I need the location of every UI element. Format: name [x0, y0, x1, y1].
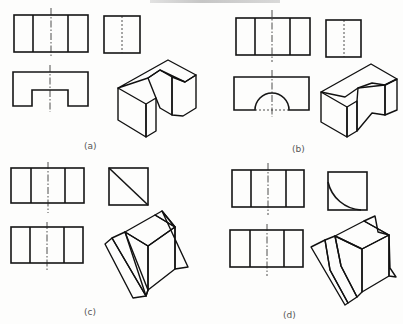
isometric-solid-cube-on-concave-quarter-prism: [311, 216, 396, 305]
face-fin-back: [364, 216, 389, 235]
panel-b: (b): [234, 10, 397, 154]
top-view: [230, 224, 303, 276]
top-view: [11, 222, 83, 272]
face-front-left: [118, 88, 146, 137]
face-right-end: [172, 75, 196, 116]
face-prism-right: [162, 211, 188, 269]
panel-caption: (b): [292, 144, 305, 154]
panel-d: (d): [230, 163, 396, 320]
face-cutout-front: [347, 101, 357, 137]
face-cube-right: [148, 227, 175, 290]
top-view-outline: [234, 77, 309, 110]
side-view: [326, 20, 361, 57]
side-view: [328, 172, 367, 210]
panel-a: (a): [13, 8, 196, 151]
isometric-solid-block-with-semicircular-cutout: [321, 64, 397, 137]
front-view: [236, 10, 310, 62]
face-curve-face: [325, 236, 357, 303]
face-front-right: [146, 98, 156, 137]
face-right-end: [385, 79, 397, 115]
panel-caption: (d): [283, 310, 296, 320]
side-view-outline: [328, 172, 367, 210]
top-view-outline: [230, 230, 303, 267]
panel-caption: (a): [84, 141, 97, 151]
face-curve-face-left: [311, 240, 348, 305]
face-notch-back: [148, 70, 172, 115]
face-cube-top: [125, 215, 175, 246]
face-cube-right: [362, 235, 389, 292]
side-view: [109, 168, 148, 205]
side-view: [104, 16, 140, 53]
orthographic-figure: (a) (b) (c) (d): [0, 0, 403, 324]
front-view: [14, 8, 88, 58]
panel-c: (c): [11, 162, 188, 317]
isometric-solid-u-channel-block: [118, 60, 196, 137]
front-view-outline: [11, 168, 84, 203]
top-view: [234, 70, 309, 117]
top-view: [13, 65, 88, 112]
quarter-arc-edge: [328, 182, 361, 210]
panel-caption: (c): [84, 307, 96, 317]
face-cube-left: [125, 232, 148, 296]
face-fin-right: [389, 235, 396, 277]
slant-edge: [109, 168, 148, 205]
face-cube-top: [335, 221, 389, 249]
top-view-outline: [13, 72, 88, 106]
front-view: [11, 162, 84, 213]
front-view: [232, 163, 304, 215]
isometric-solid-cube-on-triangular-prism: [105, 211, 188, 298]
face-front: [321, 92, 347, 137]
face-cutout-curve: [357, 83, 385, 131]
front-view-outline: [236, 18, 310, 55]
side-view-outline: [326, 20, 361, 57]
face-top: [118, 60, 196, 88]
